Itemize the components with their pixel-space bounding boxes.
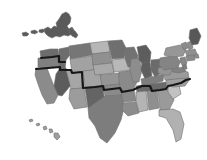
state-alabama[interactable]: [147, 90, 159, 110]
state-nebraska[interactable]: [93, 63, 114, 75]
map-canvas: [0, 0, 207, 160]
us-choropleth-map: [0, 0, 207, 160]
state-connecticut[interactable]: [186, 55, 195, 61]
